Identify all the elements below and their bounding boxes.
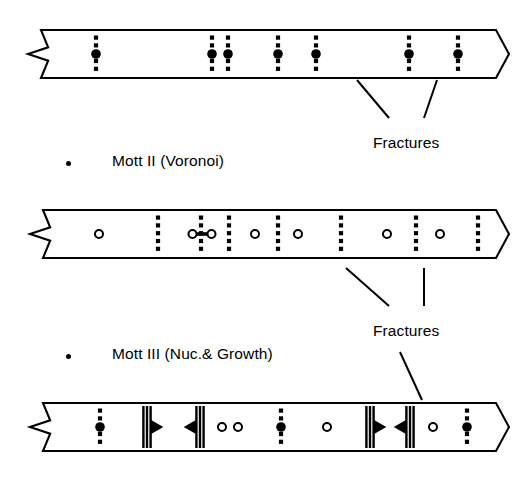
fracture-dot xyxy=(227,247,231,251)
filled-circle-nucleus-icon xyxy=(276,422,286,432)
fracture-dot xyxy=(456,67,460,71)
fractures-upper-leader-1 xyxy=(424,80,437,118)
fracture-dot xyxy=(210,43,214,47)
open-circle-nucleus-icon xyxy=(294,230,302,238)
arrow-right-icon xyxy=(373,420,386,435)
crack-bar xyxy=(412,406,414,448)
fracture-dot xyxy=(314,36,318,40)
open-circle-nucleus-icon xyxy=(95,230,103,238)
arrow-left-icon xyxy=(394,420,407,435)
fracture-dot xyxy=(94,67,98,71)
fracture-dot xyxy=(227,223,231,227)
fracture-dot xyxy=(339,247,343,251)
fracture-dot xyxy=(476,239,480,243)
fracture-dot xyxy=(456,59,460,63)
fractures-label-upper: Fractures xyxy=(373,134,439,152)
fractures-lower-leader-0 xyxy=(346,268,389,306)
fracture-dot xyxy=(226,43,230,47)
crack-bar xyxy=(369,406,371,448)
fracture-dot xyxy=(276,231,280,235)
fracture-dot xyxy=(456,36,460,40)
fracture-dot xyxy=(276,59,280,63)
fracture-dot xyxy=(156,216,160,220)
fracture-dot xyxy=(98,409,102,413)
fracture-dot xyxy=(199,247,203,251)
fracture-dot xyxy=(94,59,98,63)
open-circle-nucleus-icon xyxy=(218,423,226,431)
bands-layer xyxy=(28,30,509,451)
fracture-dot xyxy=(98,416,102,420)
fracture-dot xyxy=(210,59,214,63)
crack-bar xyxy=(146,406,148,448)
open-circle-nucleus-icon xyxy=(383,230,391,238)
mott-i-band-markers xyxy=(91,36,463,71)
fracture-dot xyxy=(276,247,280,251)
fracture-dot xyxy=(407,67,411,71)
bullet-model-2-icon xyxy=(66,161,71,166)
fracture-dot xyxy=(94,36,98,40)
fracture-dot xyxy=(476,231,480,235)
figure-canvas: Mott II (Voronoi) Mott III (Nuc.& Growth… xyxy=(0,0,521,487)
mott-iii-band xyxy=(30,403,509,451)
filled-circle-nucleus-icon xyxy=(311,49,321,59)
fracture-dot xyxy=(156,239,160,243)
crack-bar xyxy=(365,406,367,448)
fracture-dot xyxy=(227,239,231,243)
fracture-dot xyxy=(210,67,214,71)
fracture-dot xyxy=(465,432,469,436)
fracture-dot xyxy=(414,231,418,235)
model-2-label: Mott II (Voronoi) xyxy=(112,152,224,170)
filled-circle-nucleus-icon xyxy=(91,49,101,59)
fractures-lower-leader-2 xyxy=(400,352,422,400)
fracture-dot xyxy=(279,409,283,413)
open-circle-nucleus-icon xyxy=(251,230,259,238)
fracture-dot xyxy=(156,247,160,251)
fracture-dot xyxy=(314,59,318,63)
mott-iii-band-markers xyxy=(95,406,472,448)
open-circle-nucleus-icon xyxy=(208,230,216,238)
filled-circle-nucleus-icon xyxy=(207,49,217,59)
fracture-dot xyxy=(276,67,280,71)
filled-circle-nucleus-icon xyxy=(453,49,463,59)
fracture-dot xyxy=(314,43,318,47)
fracture-dot xyxy=(226,67,230,71)
fracture-dot xyxy=(339,216,343,220)
filled-circle-nucleus-icon xyxy=(404,49,414,59)
open-circle-nucleus-icon xyxy=(189,230,197,238)
filled-circle-nucleus-icon xyxy=(273,49,283,59)
filled-circle-nucleus-icon xyxy=(95,422,105,432)
fracture-dot xyxy=(94,43,98,47)
fracture-dot xyxy=(456,43,460,47)
fracture-dot xyxy=(407,59,411,63)
fracture-dot xyxy=(199,223,203,227)
mott-ii-band-markers xyxy=(95,216,480,251)
arrow-left-icon xyxy=(184,420,197,435)
fracture-dot xyxy=(465,440,469,444)
mott-ii-band xyxy=(30,210,509,258)
model-3-label: Mott III (Nuc.& Growth) xyxy=(112,345,273,363)
fracture-dot xyxy=(279,416,283,420)
open-circle-nucleus-icon xyxy=(429,423,437,431)
crack-bar xyxy=(142,406,144,448)
fracture-dot xyxy=(279,432,283,436)
open-circle-nucleus-icon xyxy=(436,230,444,238)
fracture-dot xyxy=(339,231,343,235)
fracture-dot xyxy=(465,416,469,420)
filled-circle-nucleus-icon xyxy=(223,49,233,59)
fracture-dot xyxy=(414,247,418,251)
fracture-dot xyxy=(199,216,203,220)
fracture-dot xyxy=(156,223,160,227)
fracture-dot xyxy=(407,43,411,47)
fracture-dot xyxy=(314,67,318,71)
fracture-dot xyxy=(276,223,280,227)
fracture-dot xyxy=(276,239,280,243)
fracture-dot xyxy=(407,36,411,40)
fracture-dot xyxy=(339,239,343,243)
fracture-dot xyxy=(476,216,480,220)
fracture-dot xyxy=(199,239,203,243)
fracture-dot xyxy=(476,247,480,251)
fractures-label-lower: Fractures xyxy=(373,322,439,340)
fracture-dot xyxy=(276,36,280,40)
fracture-dot xyxy=(98,440,102,444)
mott-i-band xyxy=(28,30,509,78)
